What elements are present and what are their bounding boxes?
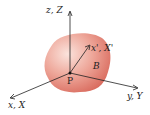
x-axis-label: x, X bbox=[8, 101, 25, 110]
origin-label: P bbox=[67, 77, 73, 86]
origin-point bbox=[69, 72, 72, 75]
body-label: B bbox=[93, 62, 100, 71]
x-prime-axis-label: x', X' bbox=[91, 44, 113, 53]
y-axis-label: y, Y bbox=[127, 92, 143, 101]
z-axis-label: z, Z bbox=[46, 6, 63, 15]
